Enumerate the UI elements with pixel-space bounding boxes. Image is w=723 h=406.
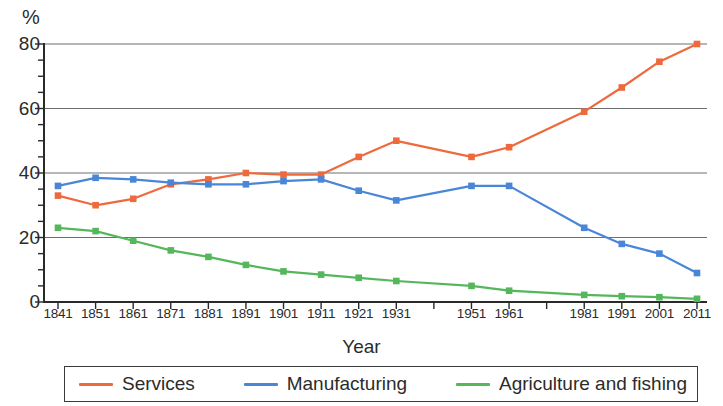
series-line-manufacturing — [58, 178, 697, 273]
data-point-marker — [355, 275, 362, 282]
data-point-marker — [318, 176, 325, 183]
data-point-marker — [393, 197, 400, 204]
legend-item-label: Agriculture and fishing — [499, 373, 687, 395]
data-point-marker — [318, 271, 325, 278]
data-point-marker — [656, 58, 663, 65]
x-axis-tick-label: 1841 — [43, 306, 72, 321]
data-point-marker — [92, 228, 99, 235]
data-series-group — [55, 41, 701, 302]
x-axis-tick-label: 1951 — [457, 306, 486, 321]
x-axis-tick-label: 1991 — [607, 306, 636, 321]
data-point-marker — [280, 268, 287, 275]
legend-item-label: Services — [122, 373, 195, 395]
x-axis-tick-label: 1931 — [382, 306, 411, 321]
gridline-group — [44, 44, 707, 238]
legend-color-swatch — [79, 383, 113, 386]
chart-legend: ServicesManufacturingAgriculture and fis… — [64, 366, 698, 402]
data-point-marker — [694, 41, 701, 48]
data-point-marker — [506, 183, 513, 190]
data-point-marker — [468, 283, 475, 290]
employment-by-sector-line-chart: % 020406080 1841185118611871188118911901… — [0, 0, 723, 406]
x-axis-tick-label: 1891 — [231, 306, 260, 321]
data-point-marker — [92, 175, 99, 182]
data-point-marker — [130, 196, 137, 203]
data-point-marker — [168, 181, 175, 188]
x-axis-tick-label: 2001 — [645, 306, 674, 321]
axis-line-group — [43, 43, 707, 302]
data-point-marker — [205, 254, 212, 261]
x-axis-tick-label: 1911 — [307, 306, 335, 321]
legend-color-swatch — [456, 383, 490, 386]
data-point-marker — [130, 237, 137, 244]
x-axis-tick-label: 1981 — [570, 306, 599, 321]
data-point-marker — [205, 181, 212, 188]
legend-color-swatch — [244, 383, 278, 386]
data-point-marker — [55, 225, 62, 232]
data-point-marker — [92, 202, 99, 209]
series-line-agriculture-and-fishing — [58, 228, 697, 299]
data-point-marker — [656, 294, 663, 301]
data-point-marker — [581, 108, 588, 115]
data-point-marker — [619, 293, 626, 300]
data-point-marker — [468, 183, 475, 190]
data-point-marker — [393, 137, 400, 144]
data-point-marker — [355, 154, 362, 161]
x-axis-tick-label: 1921 — [344, 306, 373, 321]
y-axis-tick-label: 0 — [6, 292, 40, 311]
legend-item-label: Manufacturing — [287, 373, 407, 395]
x-axis-tick-label: 1881 — [194, 306, 223, 321]
data-point-marker — [694, 296, 701, 303]
data-point-marker — [318, 171, 325, 178]
data-point-marker — [506, 287, 513, 294]
data-point-marker — [130, 176, 137, 183]
data-point-marker — [393, 278, 400, 285]
data-point-marker — [468, 154, 475, 161]
data-point-marker — [243, 181, 250, 188]
x-axis-tick-label: 1961 — [494, 306, 523, 321]
y-axis-tick-label: 60 — [6, 99, 40, 118]
data-point-marker — [168, 179, 175, 186]
x-axis-tick-label: 1851 — [81, 306, 110, 321]
x-axis-tick-label: 1861 — [119, 306, 148, 321]
x-axis-tick-label: 1871 — [156, 306, 185, 321]
y-axis-tick-label: 20 — [6, 228, 40, 247]
y-axis-tick-label: 40 — [6, 163, 40, 182]
data-point-marker — [656, 250, 663, 257]
x-axis-tick-label: 1901 — [269, 306, 298, 321]
data-point-marker — [168, 247, 175, 254]
data-point-marker — [243, 170, 250, 177]
data-point-marker — [581, 225, 588, 232]
axis-tickmark-group — [35, 44, 697, 309]
data-point-marker — [280, 171, 287, 178]
x-axis-tick-label: 2011 — [683, 306, 711, 321]
series-line-services — [58, 44, 697, 205]
data-point-marker — [506, 144, 513, 151]
data-point-marker — [355, 187, 362, 194]
data-point-marker — [619, 84, 626, 91]
x-axis-title: Year — [0, 336, 723, 358]
legend-item-agriculture-and-fishing[interactable]: Agriculture and fishing — [456, 373, 687, 395]
y-axis-tick-label: 80 — [6, 34, 40, 53]
data-point-marker — [581, 292, 588, 299]
data-point-marker — [55, 192, 62, 199]
data-point-marker — [619, 241, 626, 248]
data-point-marker — [694, 270, 701, 277]
legend-item-services[interactable]: Services — [79, 373, 195, 395]
legend-item-manufacturing[interactable]: Manufacturing — [244, 373, 407, 395]
data-point-marker — [205, 176, 212, 183]
data-point-marker — [280, 178, 287, 185]
data-point-marker — [243, 262, 250, 269]
data-point-marker — [55, 183, 62, 190]
